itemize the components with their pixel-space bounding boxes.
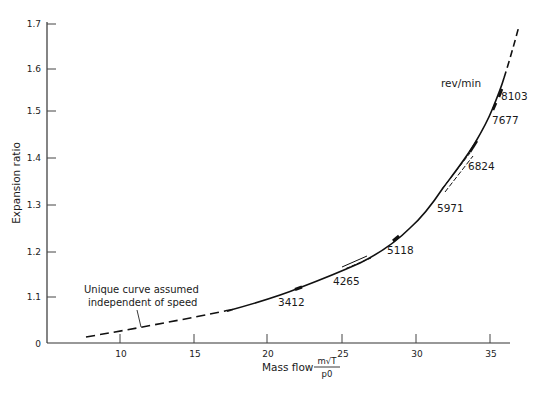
speed-label-7677: 7677 [492,114,519,126]
x-tick-label: 20 [262,349,274,359]
rev-per-min-unit: rev/min [441,77,481,89]
curve-dashed-low [86,309,234,337]
y-tick-label: 1.7 [27,19,41,29]
units-numerator: m√T [318,356,338,366]
marker-7677 [493,103,496,110]
y-tick-label: 1.1 [27,292,41,302]
y-tick-label: 1.5 [27,106,41,116]
speed-label-4265: 4265 [333,275,360,287]
y-tick-label: 1.3 [27,200,41,210]
x-tick-labels: 10 15 20 25 30 35 [115,349,496,359]
y-ticks [47,24,56,297]
x-axis-units-fraction: m√T p0 [314,356,340,379]
marker-6824 [470,141,477,152]
x-axis-title: Mass flow [262,361,314,373]
speed-label-6824: 6824 [468,160,495,172]
x-tick-label: 35 [485,349,496,359]
x-tick-label: 25 [337,349,348,359]
speed-label-8103: 8103 [501,90,528,102]
figure-caption-clipped [160,389,490,395]
speed-label-5118: 5118 [387,244,414,256]
annotation-leader [137,310,141,327]
speed-labels: 3412 4265 5118 5971 6824 7677 8103 rev/m… [278,77,528,308]
x-tick-label: 10 [115,349,127,359]
speed-label-5971: 5971 [437,202,464,214]
curve-dashed-high [504,26,519,78]
x-tick-label: 15 [189,349,200,359]
curve-solid [227,78,504,311]
marker-3412 [295,287,302,290]
y-tick-label: 0 [35,339,41,349]
annotation-line-2: independent of speed [88,297,197,308]
y-tick-labels: 0 1.1 1.2 1.3 1.4 1.5 1.6 1.7 [27,19,42,349]
marker-5118 [393,236,399,241]
speed-markers [295,89,502,290]
unique-curve-annotation: Unique curve assumed independent of spee… [84,284,199,327]
y-tick-label: 1.6 [27,64,42,74]
units-denominator: p0 [322,369,333,379]
x-ticks [120,334,490,343]
annotation-line-1: Unique curve assumed [84,284,199,295]
y-tick-label: 1.4 [27,153,42,163]
x-tick-label: 30 [411,349,423,359]
speed-label-3412: 3412 [278,296,305,308]
expansion-ratio-chart: 0 1.1 1.2 1.3 1.4 1.5 1.6 1.7 10 15 20 2… [0,0,538,395]
y-tick-label: 1.2 [27,247,41,257]
y-axis-title: Expansion ratio [10,142,22,224]
